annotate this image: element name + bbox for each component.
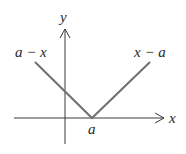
x-axis-label: x [168,110,176,126]
absolute-value-diagram: y x a a − x x − a [0,0,186,154]
left-branch-label: a − x [15,44,47,60]
y-axis-label: y [58,9,67,25]
vertex-label: a [88,121,96,137]
y-axis [60,29,70,144]
right-branch-label: x − a [133,44,166,60]
graph-line [35,62,150,118]
